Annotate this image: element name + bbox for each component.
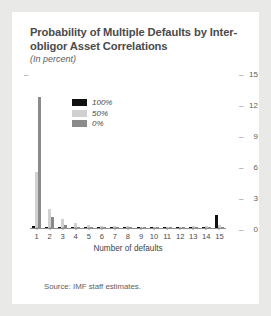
x-axis-tick-label: 13 <box>187 232 200 241</box>
bar-group <box>30 74 43 228</box>
y-axis-tick-label: –6 <box>239 163 258 172</box>
chart-subtitle: (In percent) <box>30 54 76 64</box>
bar-group <box>148 74 161 228</box>
x-axis-tick-label: 9 <box>135 232 148 241</box>
x-axis-tick-label: 4 <box>69 232 82 241</box>
left-axis-tick: – <box>24 70 28 79</box>
x-axis-tick-label: 8 <box>121 232 134 241</box>
x-axis-tick-label: 3 <box>56 232 69 241</box>
x-axis-tick-label: 7 <box>108 232 121 241</box>
x-axis-tick-label: 10 <box>148 232 161 241</box>
x-axis-baseline <box>30 228 226 229</box>
bar-group <box>200 74 213 228</box>
x-axis-tick-label: 12 <box>174 232 187 241</box>
bar-group <box>56 74 69 228</box>
bar-group <box>43 74 56 228</box>
bar-group <box>213 74 226 228</box>
x-axis-tick-label: 6 <box>95 232 108 241</box>
plot-area: – –0–3–6–9–12–15 <box>30 74 226 229</box>
x-axis-tick-label: 14 <box>200 232 213 241</box>
bar-group <box>82 74 95 228</box>
x-axis-tick-label: 15 <box>213 232 226 241</box>
y-axis-tick-label: –3 <box>239 194 258 203</box>
axis-area: – –0–3–6–9–12–15 <box>30 74 226 229</box>
bar-group <box>161 74 174 228</box>
bar-group <box>108 74 121 228</box>
x-axis-tick-label: 11 <box>161 232 174 241</box>
bar-group <box>121 74 134 228</box>
x-axis-tick-label: 5 <box>82 232 95 241</box>
x-axis-tick-label: 1 <box>30 232 43 241</box>
x-axis-tick-labels: 123456789101112131415 <box>30 232 226 241</box>
bar-groups <box>30 74 226 228</box>
chart-card: Probability of Multiple Defaults by Inte… <box>12 12 259 304</box>
bar-group <box>174 74 187 228</box>
bar-group <box>95 74 108 228</box>
bar-group <box>187 74 200 228</box>
y-axis-tick-label: –12 <box>239 101 258 110</box>
y-axis-tick-label: –0 <box>239 225 258 234</box>
y-axis-tick-label: –9 <box>239 132 258 141</box>
bar-group <box>135 74 148 228</box>
x-axis-tick-label: 2 <box>43 232 56 241</box>
bar-group <box>69 74 82 228</box>
chart-title: Probability of Multiple Defaults by Inte… <box>30 26 242 53</box>
y-axis-tick-label: –15 <box>239 70 258 79</box>
x-axis-title: Number of defaults <box>30 244 226 253</box>
source-note: Source: IMF staff estimates. <box>44 282 141 291</box>
bar <box>51 217 54 228</box>
bar <box>38 97 41 228</box>
